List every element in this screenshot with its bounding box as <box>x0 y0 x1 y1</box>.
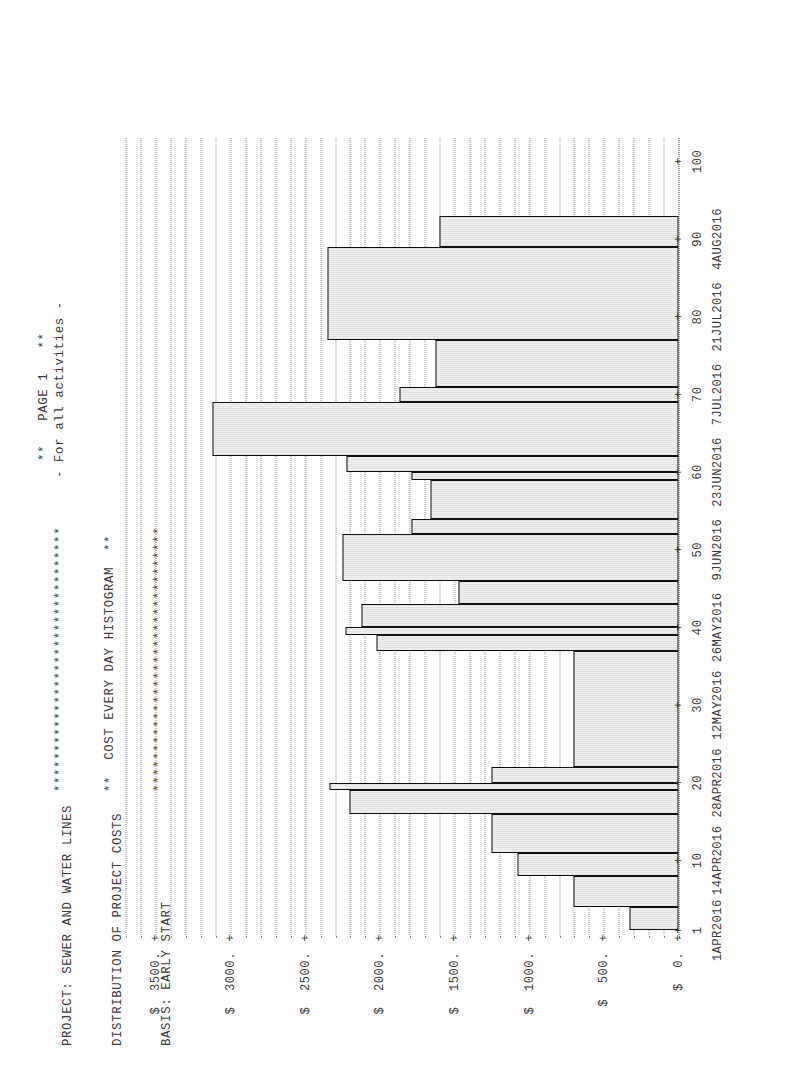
x-tick-label: 80 <box>690 309 704 325</box>
y-tick-label: $ 0. <box>671 952 685 991</box>
histogram-bar <box>361 604 678 627</box>
x-axis: +11APR2016+1014APR2016+2028APR2016+3012M… <box>678 138 768 938</box>
histogram-bar <box>517 853 678 876</box>
histogram-bar <box>573 876 678 907</box>
histogram-bar <box>327 247 678 340</box>
x-tick-date-label: 21JUL2016 <box>710 282 724 351</box>
x-tick-mark: + <box>671 158 685 165</box>
x-tick-date-label: 1APR2016 <box>710 899 724 961</box>
x-tick-mark: + <box>671 468 685 475</box>
x-tick-mark: + <box>671 313 685 320</box>
histogram-bar <box>491 767 678 783</box>
histogram-bar <box>458 581 678 604</box>
x-tick-mark: + <box>671 779 685 786</box>
x-tick-mark: + <box>671 857 685 864</box>
y-tick-label: $ 1000. <box>522 952 536 1015</box>
x-tick-label: 40 <box>690 620 704 636</box>
histogram-bar <box>342 534 678 581</box>
histogram-bar <box>212 402 678 456</box>
x-tick-label: 10 <box>690 853 704 869</box>
banner-top-rule: ********************************* <box>51 527 68 792</box>
y-tick-label: $ 500. <box>596 952 610 1007</box>
banner-title: ** COST EVERY DAY HISTOGRAM ** <box>101 527 118 792</box>
x-tick-date-label: 12MAY2016 <box>710 670 724 739</box>
histogram-bar <box>411 472 678 480</box>
x-tick-mark: + <box>671 701 685 708</box>
x-tick-date-label: 26MAY2016 <box>710 593 724 662</box>
y-tick-label: $ 1500. <box>447 952 461 1015</box>
x-tick-mark: + <box>671 391 685 398</box>
x-tick-date-label: 28APR2016 <box>710 748 724 817</box>
histogram-bar <box>329 783 678 791</box>
x-tick-mark: + <box>671 235 685 242</box>
x-tick-date-label: 14APR2016 <box>710 826 724 895</box>
histogram-bar <box>376 635 678 651</box>
x-tick-label: 30 <box>690 697 704 713</box>
histogram-bar <box>349 790 678 813</box>
y-tick-label: $ 2500. <box>298 952 312 1015</box>
x-tick-label: 20 <box>690 775 704 791</box>
histogram-bar <box>430 480 678 519</box>
histogram-bar <box>345 627 678 635</box>
x-tick-label: 50 <box>690 542 704 558</box>
x-tick-label: 1 <box>690 926 704 934</box>
x-tick-date-label: 23JUN2016 <box>710 437 724 506</box>
x-tick-mark: + <box>671 927 685 934</box>
project-line: PROJECT: SEWER AND WATER LINES <box>59 805 76 1046</box>
x-tick-label: 90 <box>690 231 704 247</box>
x-axis-rule <box>678 138 679 938</box>
page-marker: ** PAGE 1 ** <box>35 332 52 461</box>
x-tick-label: 100 <box>690 150 704 173</box>
x-tick-mark: + <box>671 546 685 553</box>
x-tick-date-label: 7JUL2016 <box>710 363 724 425</box>
x-tick-date-label: 4AUG2016 <box>710 208 724 270</box>
histogram-bar <box>346 456 678 472</box>
report-subcaption: - For all activities - <box>51 301 68 478</box>
histogram-bar <box>439 216 678 247</box>
x-tick-label: 70 <box>690 386 704 402</box>
x-tick-mark: + <box>671 624 685 631</box>
y-tick-label: $ 2000. <box>372 952 386 1015</box>
histogram-bar <box>399 387 678 403</box>
histogram-bar <box>435 340 678 387</box>
report-page: PROJECT: SEWER AND WATER LINES DISTRIBUT… <box>0 0 793 1088</box>
y-tick-label: $ 3000. <box>223 952 237 1015</box>
histogram-bar <box>491 814 678 853</box>
histogram-bar <box>573 651 678 768</box>
x-tick-label: 60 <box>690 464 704 480</box>
bar-series <box>118 138 678 938</box>
y-tick-label: $ 3500. <box>148 952 162 1015</box>
histogram-bar <box>411 519 678 535</box>
x-tick-date-label: 9JUN2016 <box>710 519 724 581</box>
